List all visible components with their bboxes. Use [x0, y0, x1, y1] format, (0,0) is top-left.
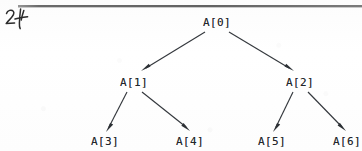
edge-a1-a4: [142, 92, 190, 131]
scanned-page: A[0] A[1] A[2] A[3] A[4] A[5] A[6]: [0, 0, 362, 151]
tree-node-a3: A[3]: [91, 135, 119, 148]
tree-node-a6: A[6]: [333, 135, 361, 148]
edge-a2-a6: [308, 92, 346, 131]
edge-a0-a1: [141, 32, 205, 71]
edge-a1-a3: [106, 92, 127, 132]
tree-node-a2: A[2]: [286, 76, 314, 89]
tree-node-a4: A[4]: [176, 135, 204, 148]
tree-node-a1: A[1]: [120, 76, 148, 89]
tree-node-a5: A[5]: [258, 135, 286, 148]
edge-a2-a5: [273, 92, 293, 132]
tree-node-a0: A[0]: [203, 16, 231, 29]
edge-a0-a2: [229, 32, 294, 71]
